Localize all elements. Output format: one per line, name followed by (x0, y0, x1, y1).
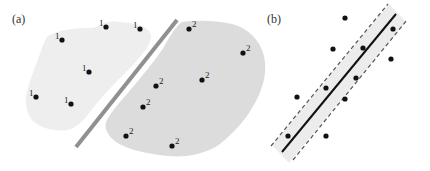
data-point (353, 75, 358, 80)
class1-point (86, 69, 91, 74)
class2-point-label: 2 (175, 136, 180, 146)
class1-point-label: 1 (82, 63, 87, 73)
class1-point (68, 101, 73, 106)
data-point (294, 94, 299, 99)
class1-point-label: 1 (133, 20, 138, 30)
data-point (323, 85, 328, 90)
class1-point (103, 24, 108, 29)
panel-a-label: (a) (12, 12, 25, 26)
data-point (388, 56, 393, 61)
class2-point-label: 2 (129, 126, 134, 136)
class2-point-label: 2 (159, 76, 164, 86)
data-point (390, 26, 395, 31)
data-point (285, 133, 290, 138)
data-point (330, 46, 335, 51)
class2-point-label: 2 (146, 97, 151, 107)
figure-canvas: (a) 111111 2222222 (b) (0, 0, 430, 171)
class2-point (123, 133, 128, 138)
class2-point (199, 77, 204, 82)
class2-point-label: 2 (246, 43, 251, 53)
upper-margin-dashed (271, 4, 388, 146)
data-point (323, 133, 328, 138)
class1-point (137, 26, 142, 31)
class1-point-label: 1 (55, 31, 60, 41)
panel-b: (b) (267, 4, 407, 163)
class2-point (140, 104, 145, 109)
class1-point-label: 1 (64, 95, 69, 105)
class2-point (186, 26, 191, 31)
data-point (342, 96, 347, 101)
panel-a: (a) 111111 2222222 (12, 12, 265, 157)
regression-line (282, 14, 396, 152)
class2-point (240, 50, 245, 55)
class2-point (153, 83, 158, 88)
class2-point-label: 2 (205, 70, 210, 80)
class2-point (169, 143, 174, 148)
data-point (342, 15, 347, 20)
class1-point (59, 37, 64, 42)
panel-b-label: (b) (267, 12, 281, 26)
class1-point-label: 1 (99, 18, 104, 28)
class1-point-label: 1 (29, 88, 34, 98)
class2-point-label: 2 (192, 19, 197, 29)
data-point (360, 45, 365, 50)
class1-point (33, 94, 38, 99)
